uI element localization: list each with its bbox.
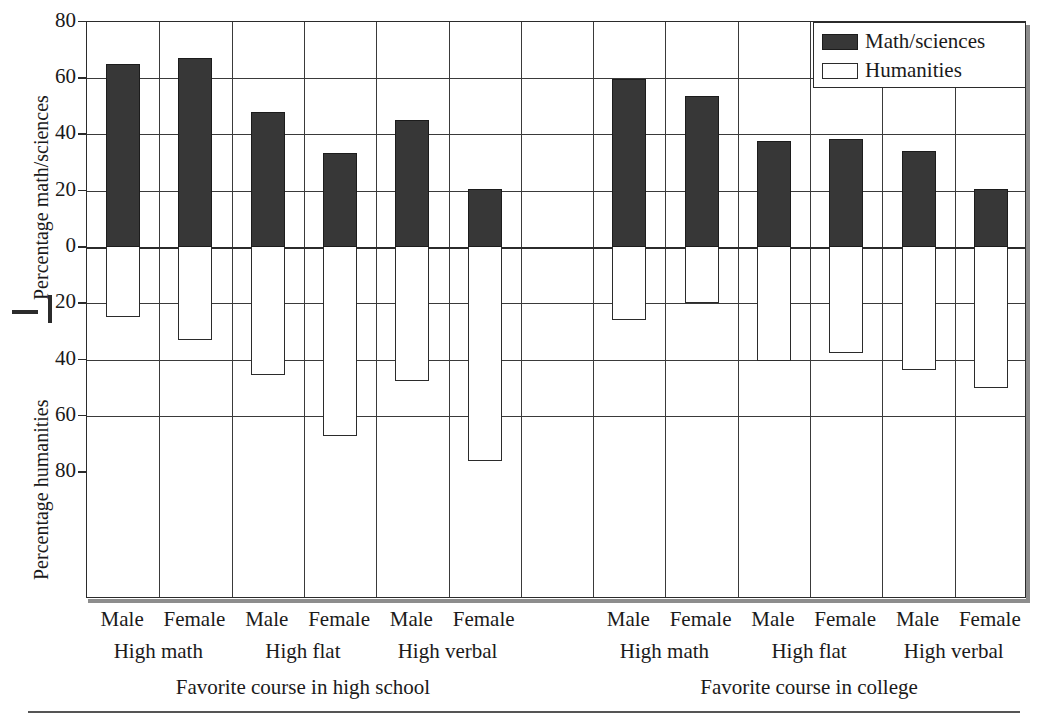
bar-humanities: [974, 247, 1008, 388]
y-axis-tick-mark: [78, 302, 87, 304]
x-axis-category-label: Female: [954, 608, 1026, 630]
gridline-vertical: [593, 22, 594, 597]
y-axis-tick-label: 20: [16, 179, 76, 200]
bar-math-sciences: [395, 120, 429, 247]
bar-math-sciences: [178, 58, 212, 247]
bar-humanities: [902, 247, 936, 370]
gridline-horizontal: [87, 416, 1025, 417]
y-axis-tick-label: 60: [16, 404, 76, 425]
legend-swatch-math-sciences-icon: [822, 34, 858, 50]
bar-math-sciences: [323, 153, 357, 247]
bar-humanities: [323, 247, 357, 436]
gridline-vertical: [376, 22, 377, 597]
gridline-vertical: [738, 22, 739, 597]
x-axis-group-label: High verbal: [854, 640, 1048, 662]
x-axis-category-label: Male: [592, 608, 664, 630]
bar-math-sciences: [974, 189, 1008, 247]
x-axis-category-label: Male: [737, 608, 809, 630]
y-axis-tick-mark: [78, 77, 87, 79]
gridline-vertical: [882, 22, 883, 597]
bar-math-sciences: [251, 112, 285, 247]
plot-area: [86, 21, 1026, 598]
y-axis-tick-mark: [78, 471, 87, 473]
x-axis-category-label: Male: [375, 608, 447, 630]
legend-item-math-sciences: Math/sciences: [822, 27, 1025, 56]
bar-math-sciences: [829, 139, 863, 247]
y-axis-tick-label: 20: [16, 291, 76, 312]
x-axis-category-label: Female: [809, 608, 881, 630]
y-axis-tick-label: 40: [16, 348, 76, 369]
gridline-vertical: [449, 22, 450, 597]
legend-shadow: [1026, 26, 1030, 92]
gridline-vertical: [665, 22, 666, 597]
legend-label-math-sciences: Math/sciences: [865, 31, 985, 52]
y-axis-tick-mark: [78, 415, 87, 417]
y-axis-tick-mark: [78, 190, 87, 192]
legend-swatch-humanities-icon: [822, 63, 858, 79]
x-axis-category-label: Female: [303, 608, 375, 630]
gridline-horizontal: [87, 191, 1025, 192]
legend: Math/sciences Humanities: [813, 22, 1026, 88]
gridline-horizontal: [87, 360, 1025, 361]
bar-math-sciences: [902, 151, 936, 247]
axis-zero-line: [87, 247, 1025, 249]
bar-humanities: [468, 247, 502, 461]
y-axis-tick-label: 0: [16, 235, 76, 256]
bar-humanities: [612, 247, 646, 320]
bar-math-sciences: [685, 96, 719, 247]
legend-item-humanities: Humanities: [822, 56, 1025, 85]
panel-label: Favorite course in college: [609, 676, 1009, 698]
x-axis-category-label: Male: [231, 608, 303, 630]
gridline-vertical: [955, 22, 956, 597]
gridline-horizontal: [87, 134, 1025, 135]
x-axis-category-label: Female: [664, 608, 736, 630]
bar-humanities: [757, 247, 791, 361]
gridline-vertical: [810, 22, 811, 597]
figure-root: Percentage math/sciences Percentage huma…: [0, 0, 1048, 723]
y-axis-tick-label: 80: [16, 460, 76, 481]
y-axis-label-bottom: Percentage humanities: [30, 400, 53, 581]
x-axis-category-label: Male: [881, 608, 953, 630]
bar-humanities: [178, 247, 212, 340]
bar-humanities: [685, 247, 719, 303]
legend-label-humanities: Humanities: [865, 60, 962, 81]
bar-humanities: [829, 247, 863, 353]
gridline-vertical: [232, 22, 233, 597]
y-axis-tick-mark: [78, 246, 87, 248]
plot-rightedge-shadow: [1026, 25, 1030, 603]
bar-humanities: [251, 247, 285, 375]
y-axis-tick-mark: [78, 133, 87, 135]
plot-baseline-shadow: [88, 599, 1028, 603]
x-axis-category-label: Male: [86, 608, 158, 630]
bar-math-sciences: [468, 189, 502, 247]
bar-humanities: [395, 247, 429, 381]
gridline-vertical: [304, 22, 305, 597]
y-axis-tick-label: 80: [16, 10, 76, 31]
panel-label: Favorite course in high school: [103, 676, 503, 698]
y-axis-tick-mark: [78, 359, 87, 361]
gridline-vertical: [159, 22, 160, 597]
gridline-vertical: [521, 22, 522, 597]
y-axis-tick-label: 40: [16, 122, 76, 143]
x-axis-category-label: Female: [448, 608, 520, 630]
y-axis-tick-label: 60: [16, 66, 76, 87]
gridline-horizontal: [87, 303, 1025, 304]
y-axis-tick-mark: [78, 21, 87, 23]
bar-math-sciences: [757, 141, 791, 247]
x-axis-category-label: Female: [158, 608, 230, 630]
bar-humanities: [106, 247, 140, 317]
footer-rule: [28, 711, 1020, 713]
x-axis-group-label: High verbal: [348, 640, 548, 662]
bar-math-sciences: [106, 64, 140, 247]
bar-math-sciences: [612, 79, 646, 247]
